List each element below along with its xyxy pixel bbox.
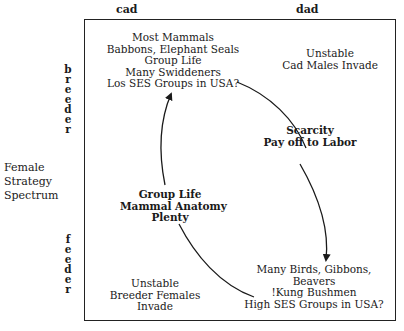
curve-dad-feeder-to-plenty [179, 224, 254, 297]
cycle-arrows [0, 0, 404, 331]
arrow-plenty-to-cad-breeder [161, 94, 171, 185]
arrow-scarcity-to-dad-feeder [300, 164, 327, 260]
curve-cad-breeder-to-scarcity [237, 82, 306, 148]
